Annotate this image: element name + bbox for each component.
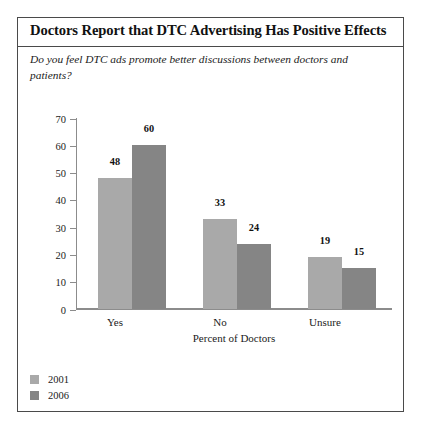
bar-value-unsure-2001: 19 [308,235,342,246]
page-title: Doctors Report that DTC Advertising Has … [30,22,395,39]
bar-unsure-2001[interactable] [308,257,342,309]
bar-yes-2001[interactable] [98,178,132,309]
bar-yes-2006[interactable] [132,145,166,309]
bar-no-2006[interactable] [237,244,271,310]
x-axis-title: Percent of Doctors [76,332,392,344]
chart-plot-area: 70 60 50 40 30 20 10 0 48 60 33 24 [30,113,392,323]
y-tick-label-20: 20 [30,250,66,261]
bar-value-unsure-2006: 15 [342,246,376,257]
legend-swatch-icon-2006 [30,391,39,400]
legend-label-2006: 2006 [48,389,69,402]
y-tick-0 [70,310,76,311]
bars-layer: 48 60 33 24 19 15 [76,118,392,309]
x-category-label-unsure: Unsure [285,316,365,328]
bar-value-no-2006: 24 [237,222,271,233]
y-tick-label-0: 0 [30,304,66,315]
bar-value-no-2001: 33 [203,197,237,208]
x-category-label-no: No [180,316,260,328]
y-tick-label-50: 50 [30,168,66,179]
y-tick-label-60: 60 [30,140,66,151]
legend-label-2001: 2001 [48,373,69,386]
bar-value-yes-2001: 48 [98,156,132,167]
y-tick-label-30: 30 [30,222,66,233]
chart-panel: Doctors Report that DTC Advertising Has … [17,17,404,412]
legend-swatch-icon-2001 [30,375,39,384]
y-tick-label-10: 10 [30,277,66,288]
title-divider [18,46,403,47]
y-tick-label-40: 40 [30,195,66,206]
bar-no-2001[interactable] [203,219,237,309]
bar-value-yes-2006: 60 [132,123,166,134]
bar-unsure-2006[interactable] [342,268,376,309]
chart-subtitle: Do you feel DTC ads promote better discu… [30,52,386,83]
y-tick-label-70: 70 [30,113,66,124]
x-category-label-yes: Yes [75,316,155,328]
